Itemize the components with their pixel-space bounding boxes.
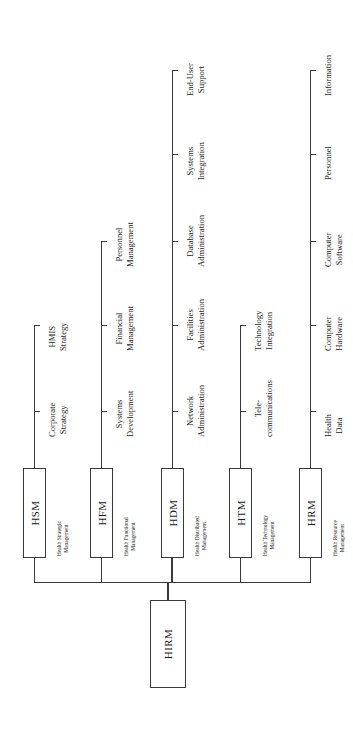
connector-hfm-to-trunk [101,558,102,583]
leaf-hrm-computer-software[interactable]: Computer Software [323,233,345,267]
connector-hsm-to-trunk [34,558,35,583]
leaf-hdm-database-administration[interactable]: Database Administration [185,215,207,267]
division-fullname-hsm: Health Strategic Management [56,521,70,556]
tick-hsm-0 [34,411,40,412]
division-box-hrm[interactable]: HRM [299,468,322,558]
leaf-htm-technology-integration[interactable]: Technology Integration [253,311,275,351]
leaf-hdm-systems-integration[interactable]: Systems Integration [185,142,207,180]
tick-hdm-3 [172,154,178,155]
connector-hrm-to-trunk [310,558,311,583]
leaf-hrm-health-data[interactable]: Health Data [323,414,345,437]
division-box-htm[interactable]: HTM [229,468,252,558]
spine-hdm [172,70,173,468]
connector-hdm-to-trunk [171,558,173,583]
tick-hdm-0 [172,411,178,412]
division-code-htm: HTM [235,500,246,526]
leaf-hsm-hmis-strategy[interactable]: HMIS Strategy [47,322,69,351]
tick-hsm-1 [34,325,40,326]
leaf-hfm-systems-development[interactable]: Systems Development [114,391,136,437]
root-stem [167,582,169,601]
spine-hrm [310,70,311,468]
spine-hfm [101,241,102,468]
tick-hfm-1 [101,325,107,326]
connector-htm-to-trunk [240,558,241,583]
division-box-hdm[interactable]: HDM [161,468,184,558]
tick-hdm-4 [172,70,178,71]
tick-hrm-3 [310,154,316,155]
division-code-hfm: HFM [96,500,107,525]
division-fullname-hfm: Health Functional Management [123,517,137,556]
leaf-hfm-personnel-management[interactable]: Personnel Management [114,222,136,267]
division-fullname-hdm: Health Distributed Management [194,516,208,556]
tick-hdm-2 [172,241,178,242]
tick-hdm-1 [172,325,178,326]
tick-hrm-1 [310,325,316,326]
division-box-hsm[interactable]: HSM [23,468,46,558]
division-fullname-hrm: Health Resource Management [332,520,346,556]
spine-htm [240,325,241,468]
leaf-hdm-facilities-administration[interactable]: Facilities Administration [185,299,207,351]
leaf-hdm-end-user-support[interactable]: End-User Support [185,63,207,96]
leaf-hrm-computer-hardware[interactable]: Computer Hardware [323,317,345,351]
tick-hrm-0 [310,411,316,412]
tick-hrm-4 [310,70,316,71]
tick-hrm-2 [310,241,316,242]
division-code-hdm: HDM [167,500,178,527]
org-chart-canvas: HIRM HSM Health Strategic Management Cor… [0,0,353,731]
spine-hsm [34,325,35,468]
leaf-htm-telecommunications[interactable]: Tele- communications [253,380,275,437]
tick-hfm-0 [101,411,107,412]
division-code-hsm: HSM [29,500,40,525]
leaf-hdm-network-administration[interactable]: Network Administration [185,385,207,437]
leaf-hsm-corporate-strategy[interactable]: Corporate Strategy [47,403,69,437]
division-box-hfm[interactable]: HFM [90,468,113,558]
division-code-hrm: HRM [305,500,316,526]
root-box-hirm[interactable]: HIRM [150,600,186,688]
division-fullname-htm: Health Technology Management [262,515,276,556]
tick-htm-0 [240,411,246,412]
leaf-hrm-information[interactable]: Information [323,55,334,96]
leaf-hfm-financial-management[interactable]: Financial Management [114,306,136,351]
tick-hfm-2 [101,241,107,242]
tick-htm-1 [240,325,246,326]
leaf-hrm-personnel[interactable]: Personnel [323,146,334,180]
root-box-code: HIRM [163,629,174,659]
